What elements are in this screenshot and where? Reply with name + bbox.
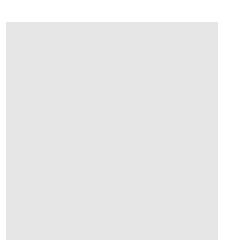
board-grid bbox=[0, 0, 231, 248]
